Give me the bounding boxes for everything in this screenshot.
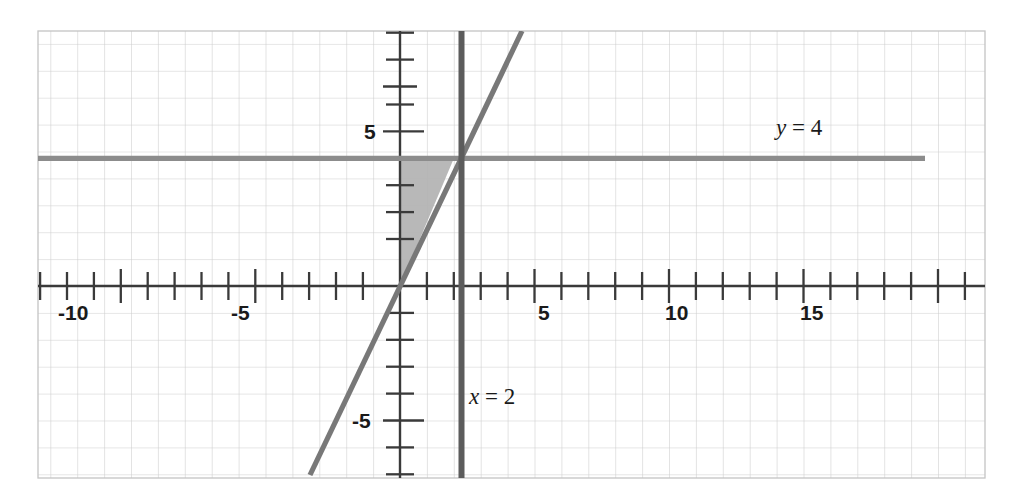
y-equals-4-operator: = — [792, 115, 805, 140]
y-equals-4-label: y = 4 — [776, 116, 822, 139]
y-tick-label-neg5: -5 — [352, 410, 371, 431]
x-equals-2-label: x = 2 — [469, 385, 515, 408]
x-equals-2-variable: x — [469, 384, 479, 409]
x-tick-label-15: 15 — [800, 302, 823, 323]
x-tick-label-neg10: -10 — [58, 302, 88, 323]
y-tick-label-5: 5 — [364, 121, 376, 142]
x-tick-label-neg5: -5 — [231, 302, 250, 323]
grid-layer — [38, 31, 985, 478]
x-equals-2-operator: = — [485, 384, 498, 409]
graph-figure: -10 -5 5 10 15 5 -5 y = 4 x = 2 — [0, 0, 1031, 504]
x-equals-2-value: 2 — [504, 384, 516, 409]
x-tick-label-5: 5 — [538, 302, 550, 323]
x-tick-label-10: 10 — [665, 302, 688, 323]
y-equals-4-variable: y — [776, 115, 786, 140]
y-equals-4-value: 4 — [811, 115, 823, 140]
coordinate-plane — [0, 0, 1031, 504]
